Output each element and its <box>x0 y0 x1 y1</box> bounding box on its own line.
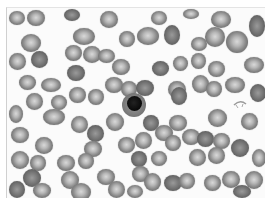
red-blood-cell <box>233 185 251 198</box>
red-blood-cell <box>87 125 104 142</box>
red-blood-cell <box>127 185 143 198</box>
red-blood-cell <box>131 151 147 167</box>
red-blood-cell <box>165 135 181 151</box>
red-blood-cell <box>41 78 61 92</box>
red-blood-cell <box>31 51 48 68</box>
red-blood-cell <box>208 61 225 77</box>
red-blood-cell <box>137 27 159 45</box>
micrograph-frame: Grayscale light micrograph of a peripher… <box>6 7 265 198</box>
red-blood-cell <box>197 131 214 147</box>
red-blood-cell <box>191 53 206 69</box>
red-blood-cell <box>71 183 91 198</box>
red-blood-cell <box>249 15 265 37</box>
red-blood-cell <box>208 147 225 164</box>
red-blood-cell <box>11 151 29 169</box>
fragment-artifact <box>233 99 247 109</box>
red-blood-cell <box>9 53 26 70</box>
red-blood-cell <box>65 45 82 61</box>
red-blood-cell <box>151 11 167 25</box>
red-blood-cell <box>64 9 80 21</box>
red-blood-cell <box>179 173 195 189</box>
red-blood-cell <box>252 149 265 167</box>
red-blood-cell <box>206 81 222 97</box>
red-blood-cell <box>241 113 258 130</box>
red-blood-cell <box>171 87 187 105</box>
red-blood-cell <box>173 56 188 71</box>
red-blood-cell <box>11 127 29 143</box>
red-blood-cell <box>225 77 245 93</box>
red-blood-cell <box>106 113 124 131</box>
red-blood-cell <box>78 153 94 169</box>
red-blood-cell <box>211 11 231 28</box>
red-blood-cell <box>69 87 86 103</box>
red-blood-cell <box>51 95 67 110</box>
red-blood-cell <box>98 49 115 63</box>
red-blood-cell <box>26 93 43 110</box>
red-blood-cell <box>164 25 180 45</box>
red-blood-cell <box>21 34 41 52</box>
red-blood-cell <box>118 137 135 153</box>
red-blood-cell <box>208 109 227 127</box>
red-blood-cell <box>35 137 53 154</box>
red-blood-cell <box>73 28 95 45</box>
red-blood-cell <box>135 132 152 149</box>
red-blood-cell <box>151 151 167 166</box>
nucleated-cell <box>122 93 146 117</box>
red-blood-cell <box>33 183 51 198</box>
red-blood-cell <box>19 75 36 90</box>
red-blood-cell <box>108 181 125 198</box>
red-blood-cell <box>57 155 75 171</box>
red-blood-cell <box>189 149 206 166</box>
red-blood-cell <box>9 105 23 123</box>
red-blood-cell <box>244 57 264 73</box>
red-blood-cell <box>250 84 265 102</box>
red-blood-cell <box>205 27 225 47</box>
red-blood-cell <box>27 10 45 26</box>
red-blood-cell <box>67 65 85 81</box>
red-blood-cell <box>119 31 135 47</box>
red-blood-cell <box>43 109 65 125</box>
red-blood-cell <box>9 11 25 25</box>
red-blood-cell <box>144 173 161 191</box>
red-blood-cell <box>71 116 88 133</box>
red-blood-cell <box>152 61 169 76</box>
red-blood-cell <box>204 175 221 191</box>
red-blood-cell <box>100 11 118 28</box>
red-blood-cell <box>112 59 130 75</box>
nucleus <box>127 96 142 111</box>
red-blood-cell <box>231 139 249 157</box>
red-blood-cell <box>183 9 199 19</box>
red-blood-cell <box>226 31 248 53</box>
red-blood-cell <box>9 181 25 198</box>
red-blood-cell <box>88 89 104 105</box>
